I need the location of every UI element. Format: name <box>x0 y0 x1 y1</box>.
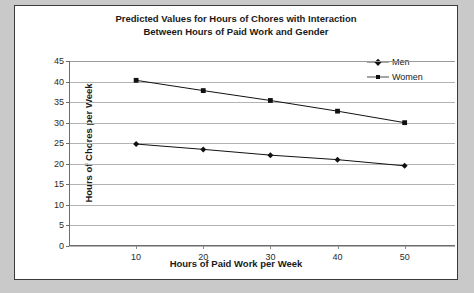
data-point-square <box>134 78 139 83</box>
x-tick-mark <box>338 246 339 249</box>
y-tick-label: 40 <box>54 77 64 87</box>
series-layer <box>69 61 455 246</box>
y-tick-label: 20 <box>54 159 64 169</box>
data-point-diamond <box>133 141 139 147</box>
y-tick-label: 35 <box>54 97 64 107</box>
series-women <box>134 78 407 125</box>
plot-area: 051015202530354045 1020304050 <box>69 61 455 246</box>
x-tick-mark <box>270 246 271 249</box>
data-point-square <box>335 109 340 114</box>
x-tick-mark <box>203 246 204 249</box>
y-tick-label: 10 <box>54 200 64 210</box>
data-point-square <box>268 98 273 103</box>
gridline <box>69 246 455 247</box>
data-point-diamond <box>402 163 408 169</box>
x-tick-label: 40 <box>333 252 343 262</box>
y-tick-label: 45 <box>54 56 64 66</box>
y-tick-label: 15 <box>54 179 64 189</box>
x-axis-title: Hours of Paid Work per Week <box>15 258 457 269</box>
data-point-square <box>402 120 407 125</box>
data-point-diamond <box>335 157 341 163</box>
y-tick-label: 25 <box>54 138 64 148</box>
chart-title-line-2: Between Hours of Paid Work and Gender <box>15 26 457 39</box>
series-men <box>133 141 408 169</box>
data-point-diamond <box>267 152 273 158</box>
x-tick-label: 30 <box>265 252 275 262</box>
chart-title: Predicted Values for Hours of Chores wit… <box>15 13 457 38</box>
chart-title-line-1: Predicted Values for Hours of Chores wit… <box>15 13 457 26</box>
x-tick-label: 10 <box>131 252 141 262</box>
data-point-diamond <box>200 146 206 152</box>
data-point-square <box>201 88 206 93</box>
y-tick-label: 5 <box>59 220 64 230</box>
x-tick-label: 50 <box>400 252 410 262</box>
y-tick-label: 30 <box>54 118 64 128</box>
chart-frame: Predicted Values for Hours of Chores wit… <box>14 5 458 280</box>
y-tick-mark <box>66 246 69 247</box>
y-tick-label: 0 <box>59 241 64 251</box>
x-tick-label: 20 <box>198 252 208 262</box>
x-tick-mark <box>405 246 406 249</box>
x-tick-mark <box>136 246 137 249</box>
